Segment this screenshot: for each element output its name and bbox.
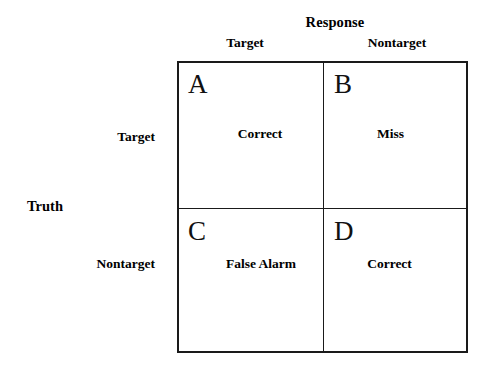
cell-letter-c: C — [188, 218, 206, 245]
row-header-nontarget: Nontarget — [97, 256, 155, 272]
cell-label-d: Correct — [331, 256, 448, 272]
vertical-divider — [323, 63, 324, 351]
horizontal-divider — [179, 208, 466, 209]
cell-label-a: Correct — [197, 126, 323, 142]
truth-axis-title: Truth — [10, 198, 80, 215]
column-header-target: Target — [185, 35, 305, 51]
matrix-cell-a: A Correct — [179, 63, 323, 208]
matrix-cell-d: D Correct — [325, 210, 466, 351]
row-header-target: Target — [117, 129, 155, 145]
cell-label-b: Miss — [331, 126, 450, 142]
matrix-grid: A Correct B Miss C False Alarm D Correct — [177, 61, 468, 353]
matrix-cell-c: C False Alarm — [179, 210, 323, 351]
column-header-nontarget: Nontarget — [337, 35, 457, 51]
cell-label-c: False Alarm — [199, 256, 323, 272]
matrix-cell-b: B Miss — [325, 63, 466, 208]
signal-detection-matrix-diagram: Response Target Nontarget Truth Target N… — [0, 0, 489, 373]
cell-letter-b: B — [334, 71, 352, 98]
cell-letter-a: A — [188, 71, 208, 98]
response-axis-title: Response — [255, 14, 415, 31]
cell-letter-d: D — [334, 218, 354, 245]
